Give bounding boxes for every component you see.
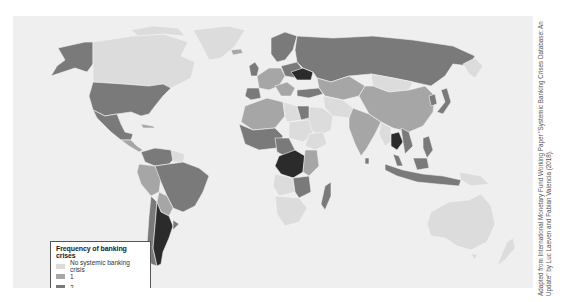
map-legend: Frequency of banking crises No systemic … bbox=[50, 241, 151, 288]
region-southern-africa bbox=[275, 196, 307, 226]
region-papua bbox=[459, 172, 489, 186]
region-australia bbox=[427, 194, 495, 250]
legend-swatch-none bbox=[56, 264, 65, 269]
region-new-zealand bbox=[497, 238, 515, 266]
region-alaska bbox=[51, 42, 93, 76]
legend-swatch-2 bbox=[56, 285, 65, 288]
source-attribution: Adapted from International Monetary Fund… bbox=[537, 6, 553, 296]
region-central-america bbox=[121, 140, 143, 152]
region-thailand bbox=[391, 132, 403, 150]
legend-label: No systemic banking crisis bbox=[70, 259, 145, 273]
map-frame: Frequency of banking crises No systemic … bbox=[13, 16, 533, 288]
region-zambia-zimbabwe bbox=[293, 176, 311, 198]
region-cuba bbox=[141, 124, 155, 128]
region-libya bbox=[283, 102, 301, 122]
region-tasmania bbox=[471, 254, 477, 260]
region-mexico bbox=[93, 110, 133, 140]
legend-item-none: No systemic banking crisis bbox=[56, 261, 145, 272]
region-madagascar bbox=[321, 182, 331, 210]
legend-label: 2 bbox=[70, 284, 74, 288]
region-greenland bbox=[193, 26, 245, 60]
region-drc bbox=[275, 150, 305, 178]
region-scandinavia bbox=[271, 32, 297, 62]
legend-title: Frequency of banking crises bbox=[56, 245, 145, 259]
region-malaysia bbox=[393, 154, 403, 166]
region-united-states bbox=[89, 82, 171, 116]
region-philippines bbox=[423, 136, 433, 158]
region-guianas bbox=[171, 150, 185, 162]
region-iceland bbox=[231, 49, 243, 55]
legend-label: 1 bbox=[70, 273, 74, 280]
region-sri-lanka bbox=[365, 158, 369, 164]
region-borneo bbox=[413, 158, 429, 170]
region-japan bbox=[437, 88, 451, 114]
region-east-africa bbox=[303, 150, 319, 176]
region-canada-islands bbox=[131, 26, 185, 36]
legend-item-2: 2 bbox=[56, 282, 145, 288]
region-uk bbox=[249, 62, 259, 76]
region-vietnam bbox=[401, 128, 413, 154]
region-iberia bbox=[245, 88, 261, 100]
region-canada bbox=[93, 34, 195, 88]
region-north-africa-west bbox=[241, 98, 285, 130]
legend-swatch-1 bbox=[56, 274, 65, 279]
region-turkey bbox=[297, 88, 323, 98]
region-uruguay bbox=[173, 220, 179, 230]
